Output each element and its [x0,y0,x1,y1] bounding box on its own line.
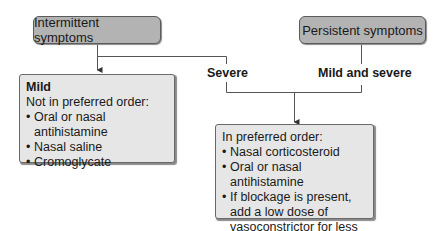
persistent-symptoms-node: Persistent symptoms [299,16,426,44]
mild-and-severe-label: Mild and severe [318,66,412,80]
preferred-list: Nasal corticosteroid Oral or nasal antih… [222,145,367,231]
list-item: Cromoglycate [26,155,168,170]
list-item: Nasal corticosteroid [222,145,367,160]
preferred-treatment-box: In preferred order: Nasal corticosteroid… [215,124,374,219]
list-item: Oral or nasal antihistamine [26,110,168,140]
list-item: Nasal saline [26,140,168,155]
mild-treatment-box: Mild Not in preferred order: Oral or nas… [19,74,175,163]
preferred-subtitle: In preferred order: [222,130,367,145]
severe-label: Severe [207,66,248,80]
mild-subtitle: Not in preferred order: [26,95,168,110]
intermittent-symptoms-label: Intermittent symptoms [34,15,160,45]
persistent-symptoms-label: Persistent symptoms [302,23,423,38]
list-item: Oral or nasal antihistamine [222,160,367,190]
mild-title: Mild [26,80,168,95]
list-item: If blockage is present, add a low dose o… [222,190,367,231]
intermittent-symptoms-node: Intermittent symptoms [33,16,161,44]
mild-list: Oral or nasal antihistamine Nasal saline… [26,110,168,170]
